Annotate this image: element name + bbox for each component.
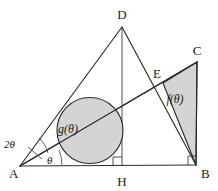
vertex-label-A: A [9, 166, 19, 181]
vertex-label-E: E [153, 66, 161, 81]
f-region-label: f(θ) [166, 92, 183, 106]
angle-label-theta: θ [47, 154, 53, 166]
geometry-figure: A B C D E H g(θ) f(θ) 2θ θ [0, 0, 218, 191]
angle-label-two-theta: 2θ [4, 138, 16, 150]
vertex-label-B: B [201, 166, 210, 181]
g-region-label: g(θ) [58, 122, 78, 136]
geometry-canvas: A B C D E H g(θ) f(θ) 2θ θ [0, 0, 218, 191]
right-angle-at-H [113, 157, 122, 166]
vertex-label-H: H [117, 174, 126, 189]
vertex-label-C: C [193, 43, 202, 58]
angle-arc-theta [59, 150, 62, 165]
vertex-label-D: D [117, 7, 126, 22]
